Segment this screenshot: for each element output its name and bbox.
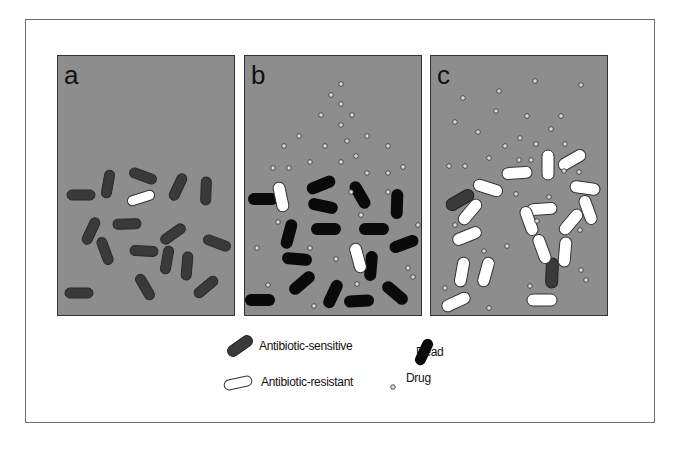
panel-c-bacteria	[431, 56, 608, 316]
panel-b-bacteria	[245, 56, 422, 316]
panel-b-label: b	[251, 62, 265, 88]
panel-c: c	[430, 55, 608, 316]
resistant-cell	[126, 189, 156, 207]
panel-a: a	[57, 55, 235, 316]
panel-a-bacteria	[58, 56, 235, 316]
panel-b: b	[244, 55, 422, 316]
panel-c-label: c	[437, 62, 450, 88]
panel-a-label: a	[64, 62, 78, 88]
